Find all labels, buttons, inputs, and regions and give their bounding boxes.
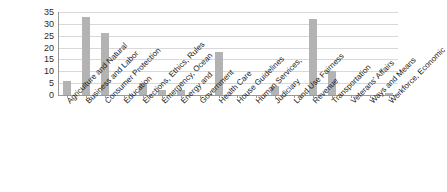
- x-axis-labels: Agriculture and NaturalBusiness and Labo…: [0, 99, 406, 192]
- y-tick-label: 10: [32, 67, 54, 76]
- y-tick-label: 20: [32, 43, 54, 52]
- y-tick-label: 5: [32, 79, 54, 88]
- y-tick-label: 25: [32, 31, 54, 40]
- y-tick-label: 35: [32, 8, 54, 17]
- y-axis-line: [58, 12, 59, 96]
- y-axis: 35 30 25 20 15 10 5 0: [30, 12, 54, 95]
- y-tick-label: 15: [32, 55, 54, 64]
- y-tick-label: 30: [32, 19, 54, 28]
